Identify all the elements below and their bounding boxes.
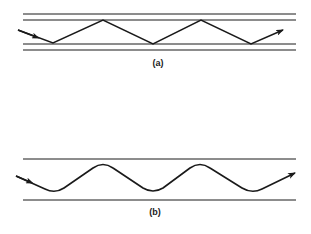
waveguide-diagram <box>0 0 311 234</box>
sinusoidal-ray <box>16 165 295 192</box>
caption-a: (a) <box>153 59 164 68</box>
panel-a-step-index <box>18 14 296 50</box>
caption-b: (b) <box>149 208 161 217</box>
panel-b-graded-index <box>16 159 296 200</box>
zigzag-ray <box>18 20 283 44</box>
